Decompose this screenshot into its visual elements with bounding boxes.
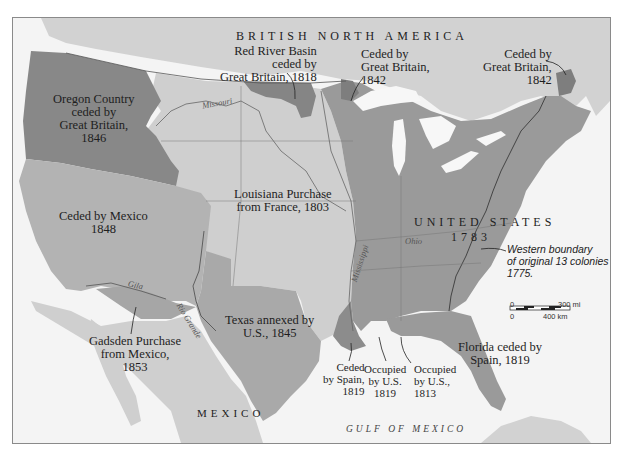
label-line: 1842 bbox=[483, 74, 552, 87]
scale-miles-end: 300 mi bbox=[558, 300, 581, 309]
label-line: Ceded bbox=[323, 361, 365, 373]
scale-bar-segment bbox=[524, 306, 534, 308]
mexican-cession-label: Ceded by Mexico 1848 bbox=[59, 210, 148, 236]
texas-label: Texas annexed by U.S., 1845 bbox=[225, 314, 314, 340]
scale-bar-segment bbox=[516, 308, 528, 310]
gulf-of-mexico-label: GULF OF MEXICO bbox=[346, 423, 466, 436]
british-north-america-label: BRITISH NORTH AMERICA bbox=[236, 30, 468, 43]
occupied-1813-label: Occupied by U.S., 1813 bbox=[414, 363, 456, 399]
label-line: by Spain, bbox=[323, 373, 365, 385]
ceded-1842-east-label: Ceded by Great Britain, 1842 bbox=[483, 48, 552, 87]
map-frame: BRITISH NORTH AMERICA Red River Basin ce… bbox=[12, 17, 611, 444]
label-line: Spain, 1819 bbox=[458, 354, 542, 367]
ohio-river-label: Ohio bbox=[405, 236, 422, 246]
label-line: by U.S. bbox=[364, 375, 406, 387]
louisiana-purchase-label: Louisiana Purchase from France, 1803 bbox=[234, 188, 332, 214]
oregon-country-label: Oregon Country ceded by Great Britain, 1… bbox=[53, 93, 135, 145]
occupied-1819-label: Occupied by U.S. 1819 bbox=[364, 363, 406, 399]
scale-km-end: 400 km bbox=[543, 312, 568, 321]
label-line: U.S., 1845 bbox=[225, 327, 314, 340]
western-boundary-label: Western boundary of original 13 colonies… bbox=[507, 243, 609, 279]
label-line: Occupied bbox=[364, 363, 406, 375]
ceded-1842-west-label: Ceded by Great Britain, 1842 bbox=[361, 48, 430, 87]
label-line: of original 13 colonies bbox=[507, 255, 609, 267]
label-line: Great Britain, 1818 bbox=[220, 71, 317, 84]
gadsden-purchase-label: Gadsden Purchase from Mexico, 1853 bbox=[89, 335, 181, 374]
mexico-label: MEXICO bbox=[197, 407, 264, 420]
scale-km-start: 0 bbox=[510, 312, 514, 321]
label-line: 1775. bbox=[507, 267, 609, 279]
label-line: 1819 bbox=[323, 385, 365, 397]
label-line: 1813 bbox=[414, 387, 456, 399]
label-line: Western boundary bbox=[507, 243, 609, 255]
ceded-spain-1819-label: Ceded by Spain, 1819 bbox=[323, 361, 365, 397]
label-line: 1848 bbox=[59, 223, 148, 236]
label-line: 1842 bbox=[361, 74, 430, 87]
red-river-label: Red River Basin ceded by Great Britain, … bbox=[220, 45, 317, 84]
label-line: Occupied bbox=[414, 363, 456, 375]
florida-label: Florida ceded by Spain, 1819 bbox=[458, 341, 542, 367]
label-line: 1846 bbox=[53, 132, 135, 145]
label-line: 1819 bbox=[364, 387, 406, 399]
united-states-year: 1783 bbox=[451, 231, 491, 244]
scale-bar-segment bbox=[541, 308, 555, 310]
label-line: 1853 bbox=[89, 361, 181, 374]
scale-miles-start: 0 bbox=[510, 300, 514, 309]
united-states-label: UNITED STATES bbox=[414, 216, 555, 229]
label-line: by U.S., bbox=[414, 375, 456, 387]
label-line: from France, 1803 bbox=[234, 201, 332, 214]
